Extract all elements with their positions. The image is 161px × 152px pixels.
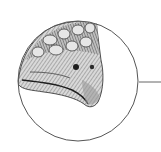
callout-svg: [0, 0, 161, 152]
nostril-icon: [90, 65, 94, 69]
eye-icon: [73, 64, 79, 70]
detail-illustration: armored reptile head illustration in cir…: [0, 0, 161, 152]
reptile-head-icon: [18, 21, 103, 107]
